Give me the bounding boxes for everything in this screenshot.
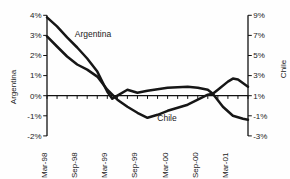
x-axis-tick-label: Mar-00: [161, 152, 170, 178]
right-axis-tick-label: -3%: [253, 132, 267, 141]
left-axis-tick-label: -2%: [27, 132, 41, 141]
left-axis-title: Argentina: [9, 69, 18, 104]
x-axis-tick-label: Sep-98: [70, 152, 79, 178]
right-axis-tick-label: 3%: [253, 71, 265, 80]
series-label-chile: Chile: [157, 113, 177, 123]
x-axis-tick-label: Sep-00: [191, 152, 200, 178]
right-axis-tick-label: 1%: [253, 92, 265, 101]
left-axis-tick-label: 3%: [30, 31, 42, 40]
chart-canvas: 4%3%2%1%0%-1%-2%9%7%5%3%1%-1%-3%Mar-98Se…: [0, 0, 290, 179]
chart-figure: 4%3%2%1%0%-1%-2%9%7%5%3%1%-1%-3%Mar-98Se…: [0, 0, 290, 179]
left-axis-tick-label: 1%: [30, 71, 42, 80]
left-axis-tick-label: 0%: [30, 92, 42, 101]
x-axis-tick-label: Mar-98: [40, 152, 49, 178]
left-axis-tick-label: -1%: [27, 112, 41, 121]
right-axis-tick-label: 7%: [253, 31, 265, 40]
right-axis-tick-label: 9%: [253, 11, 265, 20]
ticks-layer: 4%3%2%1%0%-1%-2%9%7%5%3%1%-1%-3%Mar-98Se…: [27, 11, 267, 178]
left-axis-tick-label: 4%: [30, 11, 42, 20]
x-axis-tick-label: Sep-99: [130, 152, 139, 178]
right-axis-title: Chile: [279, 59, 288, 78]
series-label-argentina: Argentina: [75, 29, 112, 39]
x-axis-tick-label: Mar-01: [221, 152, 230, 178]
left-axis-tick-label: 2%: [30, 51, 42, 60]
text-layer: Argentina Chile Argentina Chile: [9, 29, 288, 123]
right-axis-tick-label: -1%: [253, 112, 267, 121]
x-axis-tick-label: Mar-99: [100, 152, 109, 178]
right-axis-tick-label: 5%: [253, 51, 265, 60]
